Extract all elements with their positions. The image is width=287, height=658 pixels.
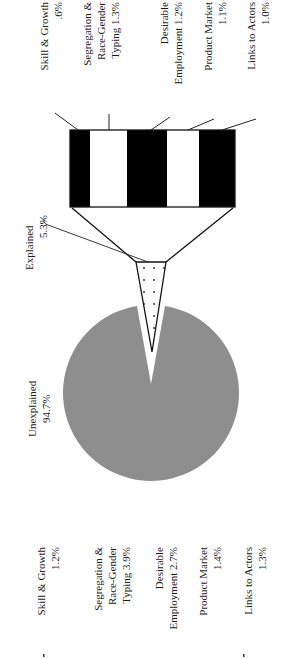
- svg-text:Skill & Growth: Skill & Growth: [38, 2, 50, 71]
- bottom-label-product-market: Product Market 1.4%: [197, 547, 223, 616]
- svg-text:Desirable: Desirable: [158, 2, 170, 44]
- svg-text:Product Market: Product Market: [202, 2, 214, 71]
- top-label-skill-growth: Skill & Growth .6%: [38, 2, 64, 71]
- chart-canvas: Unexplained 94.7% Explained 5.3% Skill &…: [0, 0, 287, 658]
- svg-text:94.7%: 94.7%: [40, 395, 52, 423]
- stacked-bar: [70, 130, 235, 207]
- svg-text:Segregation &: Segregation &: [92, 547, 104, 611]
- top-label-segregation: Segregation & Race-Gender Typing 1.3%: [81, 2, 121, 66]
- funnel-connector: [72, 208, 233, 262]
- svg-text:.6%: .6%: [52, 2, 64, 19]
- label-explained: Explained 5.3%: [23, 215, 49, 270]
- top-label-desirable-employment: Desirable Employment 1.2%: [158, 2, 184, 85]
- svg-text:5.3%: 5.3%: [37, 215, 49, 238]
- bar-segment-desirable-employment: [127, 130, 167, 207]
- top-label-links-to-actors: Links to Actors 1.0%: [245, 2, 271, 70]
- svg-text:Explained: Explained: [23, 225, 35, 270]
- bottom-label-skill-growth: Skill & Growth 1.2%: [35, 547, 61, 616]
- svg-text:1.2%: 1.2%: [49, 547, 61, 570]
- svg-text:Product Market: Product Market: [197, 547, 209, 616]
- svg-text:Employment 2.7%: Employment 2.7%: [167, 547, 179, 630]
- svg-text:Skill & Growth: Skill & Growth: [35, 547, 47, 616]
- svg-text:Links to Actors: Links to Actors: [242, 547, 254, 615]
- svg-text:Typing 1.3%: Typing 1.3%: [109, 2, 121, 59]
- svg-text:1.4%: 1.4%: [211, 547, 223, 570]
- bottom-labels: Skill & Growth 1.2% Segregation & Race-G…: [35, 547, 268, 630]
- top-label-product-market: Product Market 1.1%: [202, 2, 228, 71]
- svg-text:Unexplained: Unexplained: [26, 380, 38, 437]
- svg-text:Typing 3.9%: Typing 3.9%: [120, 547, 132, 604]
- bottom-label-links-to-actors: Links to Actors 1.3%: [242, 547, 268, 615]
- svg-text:Race-Gender: Race-Gender: [106, 547, 118, 605]
- svg-text:Segregation &: Segregation &: [81, 2, 93, 66]
- svg-text:1.0%: 1.0%: [259, 2, 271, 25]
- svg-text:Employment 1.2%: Employment 1.2%: [172, 2, 184, 85]
- bottom-label-desirable-employment: Desirable Employment 2.7%: [153, 547, 179, 630]
- bar-segment-segregation: [90, 130, 127, 207]
- svg-text:1.1%: 1.1%: [216, 2, 228, 25]
- bottom-label-segregation: Segregation & Race-Gender Typing 3.9%: [92, 547, 132, 611]
- leader-lines: [55, 113, 256, 130]
- bottom-tick-marks: [43, 654, 245, 657]
- explained-leader-line: [44, 219, 148, 262]
- label-unexplained: Unexplained 94.7%: [26, 380, 52, 437]
- top-labels: Skill & Growth .6% Segregation & Race-Ge…: [38, 2, 271, 85]
- bar-segment-product-market: [167, 130, 199, 207]
- bar-segment-links-to-actors: [199, 130, 235, 207]
- svg-text:1.3%: 1.3%: [256, 547, 268, 570]
- bar-segment-skill-growth: [70, 130, 90, 207]
- svg-text:Race-Gender: Race-Gender: [95, 2, 107, 60]
- svg-text:Desirable: Desirable: [153, 547, 165, 589]
- svg-text:Links to Actors: Links to Actors: [245, 2, 257, 70]
